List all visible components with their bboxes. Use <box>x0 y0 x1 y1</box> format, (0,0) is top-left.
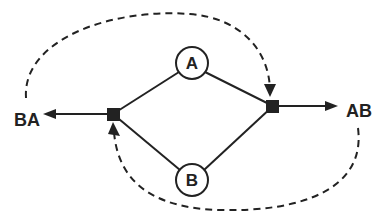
edge-left-junction-to-a <box>113 72 179 114</box>
arrowhead-icon <box>43 109 56 119</box>
edge-left-junction-to-b <box>113 114 180 170</box>
arrowhead-icon <box>264 84 276 97</box>
arrowhead-icon <box>325 101 338 111</box>
terminal-label-ba: BA <box>14 110 40 130</box>
node-a-label: A <box>186 54 198 73</box>
left-junction <box>107 108 120 121</box>
node-b-label: B <box>186 171 198 190</box>
node-a: A <box>176 47 208 79</box>
edge-b-to-right-junction <box>204 106 273 170</box>
arrowhead-icon <box>108 122 120 136</box>
node-b: B <box>176 164 208 196</box>
terminal-label-ab: AB <box>346 101 372 121</box>
edge-a-to-right-junction <box>205 72 273 106</box>
diagram-canvas: A B BA AB <box>0 0 385 221</box>
right-junction <box>266 100 279 113</box>
